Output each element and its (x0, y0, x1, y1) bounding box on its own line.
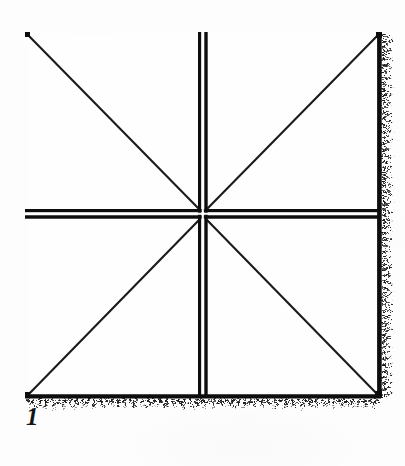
right-border-speckle (384, 34, 390, 397)
geometric-figure (0, 0, 405, 466)
corner-bottom-left (25, 392, 30, 398)
corner-bottom-right (375, 391, 382, 398)
figure-page: 1 (0, 0, 405, 466)
bottom-border-speckle (27, 401, 381, 407)
corner-top-left (25, 32, 30, 37)
bottom-border (25, 396, 381, 406)
figure-number-label: 1 (26, 404, 39, 429)
right-border (379, 32, 390, 398)
corner-top-right (376, 32, 382, 38)
